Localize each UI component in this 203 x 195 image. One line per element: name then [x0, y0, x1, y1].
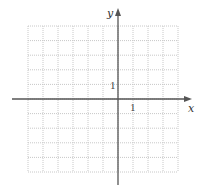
y-axis-arrowhead-icon	[115, 8, 121, 16]
y-unit-tick-label: 1	[110, 79, 116, 91]
y-axis-label: y	[106, 7, 114, 20]
coordinate-plane: x y 1 1	[0, 0, 203, 195]
x-axis-label: x	[188, 102, 195, 115]
axes	[12, 8, 192, 185]
x-unit-tick-label: 1	[130, 101, 136, 113]
